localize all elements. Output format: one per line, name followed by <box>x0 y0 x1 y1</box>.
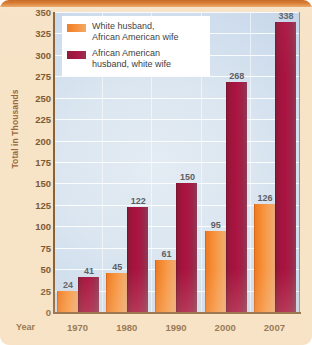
orange-swatch-icon <box>67 24 86 32</box>
y-axis-tick-label: 300 <box>35 49 51 60</box>
y-axis-tick-labels: 3503253002752502252001751501251007550250 <box>22 12 51 312</box>
legend-label-line2: husband, white wife <box>92 59 171 69</box>
bar-value-label: 268 <box>229 71 244 81</box>
legend-item-aa-husband: African American husband, white wife <box>67 48 204 70</box>
x-axis-tick-label: 1980 <box>116 322 137 333</box>
legend-item-white-husband: White husband, African American wife <box>67 21 204 43</box>
y-axis-tick-label: 175 <box>35 157 51 168</box>
x-axis-tick-label: 2000 <box>215 322 236 333</box>
bar: 338 <box>275 22 296 312</box>
y-axis-tick-label: 150 <box>35 178 51 189</box>
x-axis-tick-label: 1970 <box>67 322 88 333</box>
bar-value-label: 61 <box>161 249 171 259</box>
x-axis-tick-label: 2007 <box>264 322 285 333</box>
bar-value-label: 122 <box>131 196 146 206</box>
y-axis-tick-label: 50 <box>40 264 51 275</box>
y-axis-tick-label: 75 <box>40 242 51 253</box>
y-axis-tick-label: 200 <box>35 135 51 146</box>
bar: 24 <box>57 291 78 312</box>
bar: 150 <box>176 183 197 312</box>
legend-label-line1: White husband, <box>92 21 155 31</box>
bar: 122 <box>127 207 148 312</box>
bar: 126 <box>254 204 275 312</box>
chart-legend: White husband, African American wife Afr… <box>62 16 210 76</box>
legend-label: White husband, African American wife <box>92 21 179 43</box>
legend-label-line1: African American <box>92 48 160 58</box>
plot-right-edge <box>299 12 300 313</box>
y-axis-tick-label: 250 <box>35 92 51 103</box>
legend-label-line2: African American wife <box>92 32 179 42</box>
y-axis-tick-label: 325 <box>35 28 51 39</box>
bar: 45 <box>106 273 127 312</box>
bar: 268 <box>226 82 247 312</box>
bar-group: 126338 <box>250 12 299 312</box>
bar: 95 <box>205 231 226 312</box>
bar-value-label: 24 <box>63 280 73 290</box>
chart-figure: Total in Thousands 350325300275250225200… <box>0 0 312 345</box>
bar-value-label: 45 <box>112 262 122 272</box>
x-axis-line <box>53 312 301 314</box>
y-axis-tick-label: 25 <box>40 285 51 296</box>
bar-value-label: 95 <box>211 220 221 230</box>
maroon-swatch-icon <box>67 51 86 59</box>
y-axis-tick-label: 125 <box>35 199 51 210</box>
bar-value-label: 150 <box>180 172 195 182</box>
y-axis-tick-label: 225 <box>35 114 51 125</box>
x-axis-title: Year <box>16 322 35 332</box>
y-axis-tick-label: 275 <box>35 71 51 82</box>
bar-value-label: 126 <box>257 193 272 203</box>
bar-value-label: 41 <box>84 266 94 276</box>
legend-label: African American husband, white wife <box>92 48 171 70</box>
bar: 61 <box>155 260 176 312</box>
y-axis-line <box>53 12 55 313</box>
y-axis-tick-label: 350 <box>35 7 51 18</box>
y-axis-tick-label: 100 <box>35 221 51 232</box>
bar: 41 <box>78 277 99 312</box>
x-axis-tick-label: 1990 <box>165 322 186 333</box>
bar-value-label: 338 <box>278 11 293 21</box>
y-axis-tick-label: 0 <box>46 307 51 318</box>
